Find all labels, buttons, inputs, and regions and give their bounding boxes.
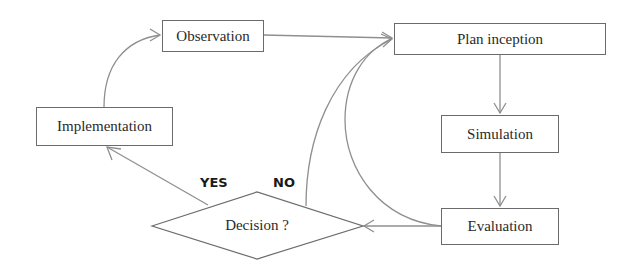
node-implementation: Implementation bbox=[36, 107, 173, 146]
node-plan-inception: Plan inception bbox=[394, 23, 606, 55]
node-decision-label: Decision ? bbox=[197, 217, 317, 234]
edge-decision-yes-to-implementation bbox=[107, 147, 208, 205]
edge-evaluation-to-plan bbox=[345, 39, 441, 226]
edge-label-yes: YES bbox=[200, 175, 228, 190]
node-evaluation-label: Evaluation bbox=[468, 218, 533, 235]
node-implementation-label: Implementation bbox=[57, 118, 152, 135]
flowchart-canvas: Observation Plan inception Simulation Ev… bbox=[0, 0, 630, 268]
edge-label-no: NO bbox=[273, 175, 295, 190]
node-simulation-label: Simulation bbox=[467, 126, 533, 143]
edge-implementation-to-observation bbox=[104, 35, 160, 107]
edge-decision-no-to-plan bbox=[306, 39, 392, 206]
node-simulation: Simulation bbox=[441, 115, 559, 153]
node-observation-label: Observation bbox=[176, 28, 249, 45]
arrowhead-icon bbox=[381, 34, 392, 47]
node-observation: Observation bbox=[162, 20, 264, 52]
node-plan-inception-label: Plan inception bbox=[457, 31, 543, 48]
node-evaluation: Evaluation bbox=[441, 208, 559, 245]
edge-observation-to-plan bbox=[263, 35, 392, 38]
